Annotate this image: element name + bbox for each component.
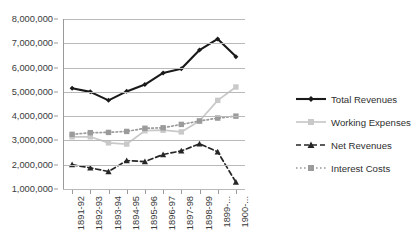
- legend-label: Interest Costs: [331, 163, 390, 174]
- x-tick-mark: [127, 190, 128, 194]
- gridline: [63, 43, 245, 44]
- plot-area: [63, 19, 245, 189]
- y-tick-mark: [54, 116, 58, 117]
- gridline: [63, 92, 245, 93]
- x-tick-mark: [200, 190, 201, 194]
- legend-swatch-icon: [296, 116, 326, 128]
- series-layer: [63, 19, 245, 189]
- gridline: [63, 19, 245, 20]
- legend-label: Net Revenues: [331, 140, 392, 151]
- legend-swatch-icon: [296, 162, 326, 174]
- x-tick-mark: [236, 190, 237, 194]
- y-tick-mark: [54, 164, 58, 165]
- legend-label: Working Expenses: [331, 117, 411, 128]
- x-tick-mark: [109, 190, 110, 194]
- x-tick-label: 1900-...: [240, 196, 250, 228]
- y-tick-mark: [54, 43, 58, 44]
- chart-container: 8,000,0007,000,0006,000,0005,000,0004,00…: [0, 0, 420, 244]
- legend-swatch-icon: [296, 139, 326, 151]
- y-tick-mark: [54, 67, 58, 68]
- gridline: [63, 68, 245, 69]
- y-tick-label: 6,000,000: [12, 63, 53, 73]
- y-tick-label: 3,000,000: [12, 135, 53, 145]
- x-tick-mark: [163, 190, 164, 194]
- x-tick-label: 1899-...: [222, 196, 232, 228]
- y-tick-label: 1,000,000: [12, 184, 53, 194]
- y-axis: 8,000,0007,000,0006,000,0005,000,0004,00…: [0, 19, 58, 189]
- x-tick-label: 1897-98: [185, 196, 195, 230]
- gridline: [63, 140, 245, 141]
- y-tick-label: 8,000,000: [12, 14, 53, 24]
- y-axis-line: [63, 19, 64, 189]
- legend-item-working-expenses[interactable]: Working Expenses: [296, 113, 418, 131]
- x-axis: 1891-921892-931893-941894-951895-961896-…: [63, 190, 245, 244]
- x-tick-mark: [218, 190, 219, 194]
- x-tick-label: 1893-94: [113, 196, 123, 230]
- y-tick-label: 5,000,000: [12, 87, 53, 97]
- gridline: [63, 165, 245, 166]
- y-tick-mark: [54, 189, 58, 190]
- series-net-revenues: [69, 141, 239, 185]
- x-tick-label: 1898-99: [204, 196, 214, 230]
- chart-legend: Total RevenuesWorking ExpensesNet Revenu…: [296, 90, 418, 182]
- x-tick-mark: [181, 190, 182, 194]
- legend-item-total-revenues[interactable]: Total Revenues: [296, 90, 418, 108]
- legend-item-interest-costs[interactable]: Interest Costs: [296, 159, 418, 177]
- legend-swatch-icon: [296, 93, 326, 105]
- x-tick-label: 1895-96: [149, 196, 159, 230]
- y-tick-label: 2,000,000: [12, 160, 53, 170]
- y-tick-mark: [54, 140, 58, 141]
- x-tick-label: 1891-92: [76, 196, 86, 230]
- x-tick-label: 1894-95: [131, 196, 141, 230]
- gridline: [63, 116, 245, 117]
- legend-label: Total Revenues: [331, 94, 397, 105]
- x-tick-mark: [145, 190, 146, 194]
- y-tick-mark: [54, 91, 58, 92]
- x-tick-mark: [72, 190, 73, 194]
- x-tick-mark: [90, 190, 91, 194]
- legend-item-net-revenues[interactable]: Net Revenues: [296, 136, 418, 154]
- y-tick-mark: [54, 19, 58, 20]
- x-tick-label: 1892-93: [94, 196, 104, 230]
- x-tick-label: 1896-97: [167, 196, 177, 230]
- y-tick-label: 7,000,000: [12, 38, 53, 48]
- y-tick-label: 4,000,000: [12, 111, 53, 121]
